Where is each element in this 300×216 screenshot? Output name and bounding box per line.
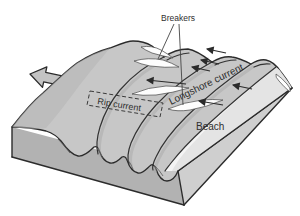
breakers-label: Breakers: [161, 13, 195, 23]
diagram-canvas: Rip current Breakers Longshore current B…: [0, 0, 300, 216]
coastal-currents-diagram: Rip current Breakers Longshore current B…: [0, 0, 300, 216]
beach-label: Beach: [196, 121, 224, 132]
